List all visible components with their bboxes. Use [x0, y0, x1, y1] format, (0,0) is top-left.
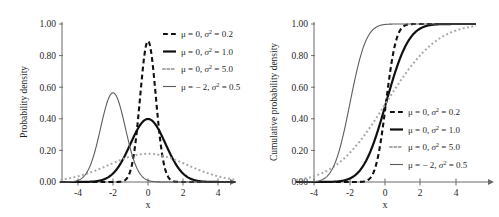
pdf-x-axis-label: x — [146, 199, 151, 210]
x-tick-label: 4 — [216, 188, 221, 198]
legend-item[interactable]: μ = 0, σ2 = 5.0 — [163, 63, 233, 75]
cumulative-probability-density-panel: 0.000.200.400.600.801.00 -4-2024 Cumulat… — [250, 0, 499, 217]
legend-label: μ = 0, σ2 = 5.0 — [408, 141, 460, 153]
legend-item[interactable]: μ = 0, σ2 = 5.0 — [390, 141, 460, 153]
legend-label: μ = 0, σ2 = 0.2 — [408, 106, 460, 118]
legend-label: μ = 0, σ2 = 5.0 — [181, 63, 233, 75]
x-tick-label: 2 — [418, 188, 423, 198]
y-tick-label: 1.00 — [39, 19, 56, 29]
x-tick-label: -2 — [109, 188, 117, 198]
legend-item[interactable]: μ = − 2, σ2 = 0.5 — [390, 158, 468, 170]
y-tick-label: 0.60 — [39, 83, 56, 93]
legend-item[interactable]: μ = 0, σ2 = 1.0 — [163, 45, 233, 57]
y-tick-label: 0.40 — [39, 114, 56, 124]
y-tick-label: 0.20 — [291, 146, 308, 156]
legend-label: μ = 0, σ2 = 0.2 — [181, 28, 233, 40]
x-tick-label: 4 — [454, 188, 459, 198]
legend-item[interactable]: μ = − 2, σ2 = 0.5 — [163, 80, 241, 92]
y-tick-label: 0.00 — [39, 177, 56, 187]
cdf-plot-svg: 0.000.200.400.600.801.00 -4-2024 Cumulat… — [250, 0, 499, 217]
cdf-y-axis-label: Cumulative probability density — [269, 43, 279, 161]
cdf-y-ticks: 0.000.200.400.600.801.00 — [291, 19, 315, 187]
y-tick-label: 0.20 — [39, 146, 56, 156]
legend-item[interactable]: μ = 0, σ2 = 0.2 — [390, 106, 460, 118]
x-tick-label: 2 — [181, 188, 186, 198]
legend-label: μ = 0, σ2 = 1.0 — [408, 123, 460, 135]
curve--0-5-0 — [61, 154, 236, 180]
y-tick-label: 0.40 — [291, 114, 308, 124]
pdf-plot-svg: 0.000.200.400.600.801.00 -4-2024 Probabi… — [0, 0, 249, 217]
cdf-x-axis-label: x — [383, 199, 388, 210]
pdf-legend: μ = 0, σ2 = 0.2μ = 0, σ2 = 1.0μ = 0, σ2 … — [163, 28, 241, 92]
x-tick-label: -4 — [74, 188, 82, 198]
x-tick-label: 0 — [146, 188, 151, 198]
legend-label: μ = − 2, σ2 = 0.5 — [181, 80, 241, 92]
pdf-y-axis-label: Probability density — [19, 66, 29, 138]
legend-label: μ = − 2, σ2 = 0.5 — [408, 158, 468, 170]
y-tick-label: 0.60 — [291, 83, 308, 93]
normal-distribution-figure: 0.000.200.400.600.801.00 -4-2024 Probabi… — [0, 0, 499, 217]
x-tick-label: -2 — [346, 188, 354, 198]
x-tick-label: 0 — [383, 188, 388, 198]
curve--2-0-5 — [61, 93, 236, 182]
pdf-y-ticks: 0.000.200.400.600.801.00 — [39, 19, 63, 187]
legend-item[interactable]: μ = 0, σ2 = 0.2 — [163, 28, 233, 40]
y-tick-label: 0.80 — [39, 51, 56, 61]
probability-density-panel: 0.000.200.400.600.801.00 -4-2024 Probabi… — [0, 0, 249, 217]
cdf-legend: μ = 0, σ2 = 0.2μ = 0, σ2 = 1.0μ = 0, σ2 … — [390, 106, 468, 170]
y-tick-label: 0.80 — [291, 51, 308, 61]
legend-item[interactable]: μ = 0, σ2 = 1.0 — [390, 123, 460, 135]
curve--0-5-0 — [296, 26, 476, 180]
cdf-curves — [296, 24, 476, 182]
y-tick-label: 1.00 — [291, 19, 308, 29]
x-tick-label: -4 — [310, 188, 318, 198]
legend-label: μ = 0, σ2 = 1.0 — [181, 45, 233, 57]
